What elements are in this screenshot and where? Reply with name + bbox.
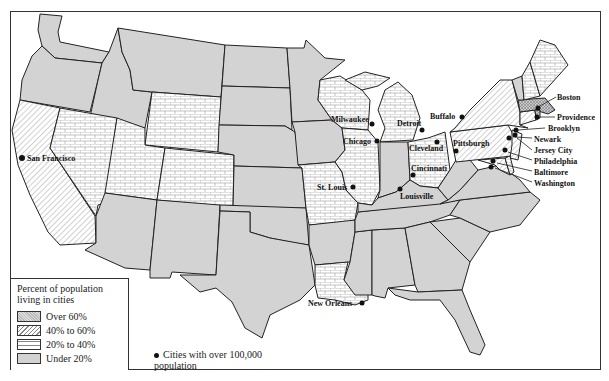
- svg-text:Buffalo: Buffalo: [430, 112, 455, 121]
- svg-text:Boston: Boston: [557, 93, 581, 102]
- svg-text:Baltimore: Baltimore: [534, 168, 569, 177]
- svg-text:Jersey City: Jersey City: [534, 146, 572, 155]
- svg-text:Philadelphia: Philadelphia: [534, 157, 577, 166]
- svg-text:New Orleans: New Orleans: [308, 299, 352, 308]
- svg-text:St. Louis: St. Louis: [317, 183, 347, 192]
- state-iowa: [292, 120, 345, 165]
- svg-text:Louisville: Louisville: [400, 192, 434, 201]
- svg-text:Detroit: Detroit: [397, 119, 422, 128]
- svg-text:Washington: Washington: [534, 179, 575, 188]
- svg-text:Pittsburgh: Pittsburgh: [453, 139, 490, 148]
- diagonal-lines-swatch-icon: [17, 325, 41, 336]
- legend-label: Under 20%: [46, 353, 92, 364]
- legend-item-20-40: 20% to 40%: [17, 337, 122, 351]
- city-dot-icon: [154, 353, 159, 358]
- cities-legend-note: Cities with over 100,000 population: [154, 349, 284, 371]
- state-colorado: [157, 148, 234, 208]
- svg-text:Cleveland: Cleveland: [409, 144, 444, 153]
- state-kansas: [233, 166, 306, 208]
- svg-text:Cincinnati: Cincinnati: [411, 164, 448, 173]
- svg-text:San Francisco: San Francisco: [27, 154, 75, 163]
- legend-label: Over 60%: [46, 311, 87, 322]
- state-connecticut: [520, 110, 536, 125]
- svg-text:Newark: Newark: [534, 135, 562, 144]
- state-new-mexico: [150, 200, 220, 278]
- state-south-dakota: [219, 86, 292, 130]
- solid-gray-swatch-icon: [17, 353, 41, 364]
- svg-text:Milwaukee: Milwaukee: [331, 115, 369, 124]
- legend-title: Percent of population living in cities: [17, 283, 122, 305]
- state-north-dakota: [222, 45, 290, 88]
- brick-swatch-icon: [17, 339, 41, 350]
- legend-label: 20% to 40%: [46, 339, 95, 350]
- svg-text:Brooklyn: Brooklyn: [548, 124, 580, 133]
- crosshatch-swatch-icon: [17, 311, 41, 322]
- legend-label: 40% to 60%: [46, 325, 95, 336]
- state-arkansas: [309, 220, 355, 265]
- city-brooklyn: Brooklyn: [514, 124, 581, 133]
- map-legend: Percent of population living in cities O…: [11, 278, 129, 370]
- city-san-francisco: San Francisco: [19, 154, 75, 163]
- legend-item-40-60: 40% to 60%: [17, 323, 122, 337]
- city-providence: Providence: [535, 113, 596, 122]
- svg-text:Providence: Providence: [557, 113, 596, 122]
- legend-item-under-20: Under 20%: [17, 351, 122, 365]
- city-buffalo: Buffalo: [430, 112, 465, 121]
- state-montana: [118, 28, 225, 97]
- state-wyoming: [145, 92, 221, 152]
- svg-text:Chicago: Chicago: [343, 137, 371, 146]
- state-florida: [388, 288, 485, 355]
- legend-item-over-60: Over 60%: [17, 309, 122, 323]
